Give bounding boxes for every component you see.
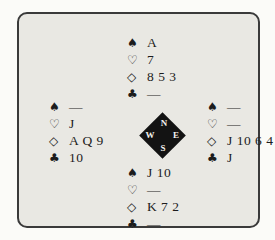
west-diamonds-row: ◇ A Q 9 bbox=[49, 132, 104, 149]
north-hand: ♠ A ♡ 7 ◇ 8 5 3 ♣ — bbox=[127, 34, 177, 102]
compass-north-label: N bbox=[161, 119, 168, 128]
east-hearts-cards: — bbox=[227, 116, 241, 132]
west-spades-row: ♠ — bbox=[49, 98, 104, 115]
spade-icon: ♠ bbox=[127, 167, 141, 179]
east-hearts-row: ♡ — bbox=[207, 115, 273, 132]
east-spades-cards: — bbox=[227, 99, 241, 115]
west-hearts-cards: J bbox=[69, 116, 75, 132]
heart-icon: ♡ bbox=[127, 54, 141, 66]
deal-panel: ♠ A ♡ 7 ◇ 8 5 3 ♣ — ♠ — ♡ J bbox=[17, 12, 260, 228]
compass-west-label: W bbox=[146, 131, 155, 140]
spade-icon: ♠ bbox=[207, 101, 221, 113]
north-diamonds-cards: 8 5 3 bbox=[147, 69, 177, 85]
club-icon: ♣ bbox=[127, 88, 141, 100]
heart-icon: ♡ bbox=[207, 118, 221, 130]
east-clubs-row: ♣ J bbox=[207, 149, 273, 166]
north-diamonds-row: ◇ 8 5 3 bbox=[127, 68, 177, 85]
south-hearts-row: ♡ — bbox=[127, 181, 180, 198]
heart-icon: ♡ bbox=[127, 184, 141, 196]
east-diamonds-cards: J 10 6 4 bbox=[227, 133, 273, 149]
compass-east-label: E bbox=[173, 131, 179, 140]
south-diamonds-cards: K 7 2 bbox=[147, 199, 180, 215]
west-diamonds-cards: A Q 9 bbox=[69, 133, 104, 149]
north-hearts-row: ♡ 7 bbox=[127, 51, 177, 68]
diamond-icon: ◇ bbox=[49, 135, 63, 147]
east-clubs-cards: J bbox=[227, 150, 233, 166]
club-icon: ♣ bbox=[207, 152, 221, 164]
east-diamonds-row: ◇ J 10 6 4 bbox=[207, 132, 273, 149]
south-spades-row: ♠ J 10 bbox=[127, 164, 180, 181]
compass-south-label: S bbox=[160, 144, 165, 153]
compass-rose: N E S W bbox=[139, 112, 187, 160]
spade-icon: ♠ bbox=[127, 37, 141, 49]
club-icon: ♣ bbox=[49, 152, 63, 164]
west-hand: ♠ — ♡ J ◇ A Q 9 ♣ 10 bbox=[49, 98, 104, 166]
north-clubs-cards: — bbox=[147, 86, 161, 102]
south-hand: ♠ J 10 ♡ — ◇ K 7 2 ♣ — bbox=[127, 164, 180, 232]
west-clubs-row: ♣ 10 bbox=[49, 149, 104, 166]
east-spades-row: ♠ — bbox=[207, 98, 273, 115]
east-hand: ♠ — ♡ — ◇ J 10 6 4 ♣ J bbox=[207, 98, 273, 166]
south-clubs-cards: — bbox=[147, 216, 161, 232]
diamond-icon: ◇ bbox=[127, 201, 141, 213]
north-spades-cards: A bbox=[147, 35, 157, 51]
west-hearts-row: ♡ J bbox=[49, 115, 104, 132]
south-spades-cards: J 10 bbox=[147, 165, 171, 181]
north-spades-row: ♠ A bbox=[127, 34, 177, 51]
heart-icon: ♡ bbox=[49, 118, 63, 130]
south-hearts-cards: — bbox=[147, 182, 161, 198]
club-icon: ♣ bbox=[127, 218, 141, 230]
spade-icon: ♠ bbox=[49, 101, 63, 113]
diamond-icon: ◇ bbox=[127, 71, 141, 83]
bridge-deal-diagram: ♠ A ♡ 7 ◇ 8 5 3 ♣ — ♠ — ♡ J bbox=[0, 0, 275, 240]
south-clubs-row: ♣ — bbox=[127, 215, 180, 232]
north-clubs-row: ♣ — bbox=[127, 85, 177, 102]
south-diamonds-row: ◇ K 7 2 bbox=[127, 198, 180, 215]
west-clubs-cards: 10 bbox=[69, 150, 84, 166]
north-hearts-cards: 7 bbox=[147, 52, 154, 68]
west-spades-cards: — bbox=[69, 99, 83, 115]
diamond-icon: ◇ bbox=[207, 135, 221, 147]
